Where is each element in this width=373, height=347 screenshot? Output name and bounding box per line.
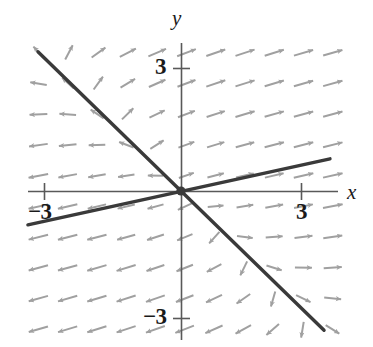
field-arrow [87, 296, 106, 302]
field-arrow [265, 142, 284, 147]
field-arrow [117, 265, 136, 271]
field-arrow [294, 173, 314, 177]
field-arrow [117, 326, 136, 332]
field-arrow [178, 80, 196, 87]
field-arrow [122, 108, 133, 119]
x-tick-label-positive-3: 3 [296, 200, 307, 223]
field-arrow [266, 324, 279, 335]
field-arrow [117, 296, 136, 302]
field-arrow [294, 81, 313, 87]
field-arrow [120, 49, 136, 57]
field-arrow [177, 49, 196, 56]
field-arrow [150, 140, 163, 148]
field-arrow [294, 111, 313, 116]
field-arrow [271, 291, 275, 306]
field-arrow [294, 142, 313, 147]
field-arrow [237, 236, 253, 238]
field-arrow [236, 50, 255, 56]
field-arrow [59, 144, 77, 146]
field-arrow [30, 114, 48, 115]
field-arrow [323, 235, 342, 238]
field-arrow [323, 204, 343, 208]
field-arrow [265, 111, 284, 116]
field-arrow [207, 173, 223, 177]
origin-point [176, 186, 185, 195]
field-arrow [323, 142, 342, 147]
field-arrow [206, 80, 225, 86]
field-arrow [29, 296, 48, 301]
field-arrow [29, 265, 48, 270]
field-arrow [266, 236, 283, 237]
field-arrow [118, 175, 134, 177]
x-tick-label-negative-3: −3 [28, 200, 52, 223]
field-arrow [88, 174, 105, 177]
field-arrow [29, 144, 48, 147]
field-arrow [58, 235, 77, 240]
field-arrow [207, 111, 225, 117]
field-arrow [178, 203, 192, 210]
field-arrow [87, 326, 106, 332]
field-arrow [146, 295, 165, 302]
field-arrow [87, 235, 106, 240]
field-arrow [237, 294, 251, 304]
field-arrow [323, 173, 343, 177]
x-axis-label: x [347, 182, 356, 203]
field-arrow [177, 265, 193, 271]
field-arrow [58, 174, 76, 177]
field-arrow [208, 206, 224, 207]
field-arrow [301, 322, 304, 338]
y-tick-label-negative-3: −3 [143, 305, 167, 328]
field-arrow [294, 50, 313, 56]
field-arrow [265, 50, 284, 56]
y-axis-label: y [172, 8, 181, 29]
field-arrow [296, 295, 310, 302]
field-arrow [149, 80, 165, 87]
field-arrow [326, 325, 340, 334]
field-arrow [58, 296, 77, 302]
field-arrow [29, 174, 49, 178]
field-arrow [177, 234, 192, 240]
field-arrow [323, 81, 342, 86]
field-arrow [92, 48, 106, 58]
field-arrow [236, 325, 251, 334]
field-arrow [147, 235, 164, 240]
field-arrow [148, 204, 164, 208]
field-arrow [294, 236, 312, 238]
field-arrow [147, 265, 165, 271]
field-arrow [235, 80, 254, 86]
field-arrow [29, 326, 48, 332]
field-arrow [205, 325, 222, 333]
field-arrow [207, 264, 222, 272]
field-arrow [117, 235, 135, 240]
field-arrow [30, 82, 46, 85]
field-arrow [58, 265, 77, 270]
field-arrow [235, 111, 254, 117]
field-arrow [207, 142, 224, 147]
field-arrow [324, 297, 341, 299]
field-arrow [58, 326, 77, 332]
y-tick-label-positive-3: 3 [155, 55, 166, 78]
field-arrow [149, 110, 164, 117]
field-arrow [323, 112, 342, 117]
field-arrow [266, 265, 281, 270]
field-arrow [176, 295, 194, 302]
field-arrow [29, 235, 48, 240]
field-arrow [265, 81, 284, 87]
field-arrow [178, 111, 195, 117]
field-arrow [240, 261, 247, 275]
field-arrow [94, 77, 103, 90]
field-arrow [58, 204, 77, 208]
field-arrow [209, 232, 219, 244]
field-arrow [206, 295, 222, 303]
field-arrow [236, 142, 254, 147]
field-arrow [59, 114, 76, 115]
field-arrow [175, 326, 194, 333]
direction-field-figure: x y 3 −3 −3 3 [0, 0, 373, 347]
field-arrow [323, 50, 342, 56]
plot-canvas [0, 0, 373, 347]
field-arrow [65, 45, 72, 59]
field-arrow [265, 205, 283, 208]
field-arrow [87, 265, 106, 271]
field-arrow [237, 205, 254, 208]
field-arrow [89, 145, 106, 146]
